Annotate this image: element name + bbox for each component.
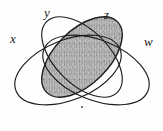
venn-diagram-canvas bbox=[0, 0, 163, 131]
set-y-stipple-overlay bbox=[0, 0, 163, 131]
set-label-x: x bbox=[10, 32, 16, 45]
set-label-y: y bbox=[44, 6, 50, 19]
center-dot-mark bbox=[81, 106, 83, 108]
set-y-shaded-region bbox=[0, 0, 163, 131]
venn-diagram-figure: x y z w bbox=[0, 0, 163, 131]
set-label-z: z bbox=[104, 8, 109, 21]
set-label-w: w bbox=[144, 35, 153, 48]
